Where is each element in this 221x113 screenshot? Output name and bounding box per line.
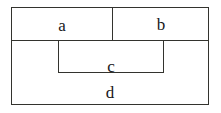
region-label-a: a [58,17,66,34]
region-label-d: d [106,84,115,101]
region-label-b: b [157,16,166,33]
vertical-divider-a-b [112,7,113,40]
region-label-c: c [107,58,115,75]
figure-canvas: a b c d [0,0,221,113]
